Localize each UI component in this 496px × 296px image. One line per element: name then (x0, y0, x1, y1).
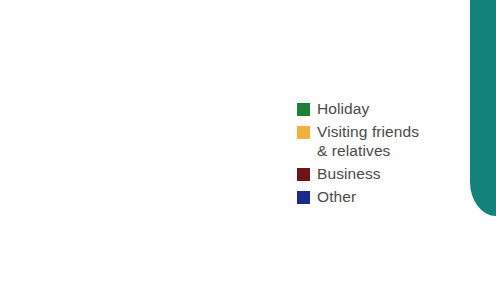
pie-chart-figure: Holiday Visiting friends & relatives Bus… (0, 0, 496, 296)
page-edge-decoration (470, 0, 496, 216)
legend-swatch-visiting-friends-and-relatives (297, 126, 310, 139)
chart-legend: Holiday Visiting friends & relatives Bus… (297, 99, 427, 210)
legend-label-holiday: Holiday (317, 99, 369, 118)
pie-chart-svg (22, 23, 276, 277)
pie-chart-plot-area (22, 23, 276, 277)
legend-item-holiday[interactable]: Holiday (297, 99, 427, 118)
legend-swatch-holiday (297, 103, 310, 116)
legend-item-business[interactable]: Business (297, 164, 427, 183)
legend-label-visiting-friends-and-relatives: Visiting friends & relatives (317, 122, 419, 160)
legend-item-other[interactable]: Other (297, 187, 427, 206)
legend-label-business: Business (317, 164, 381, 183)
legend-swatch-other (297, 191, 310, 204)
legend-label-other: Other (317, 187, 356, 206)
legend-swatch-business (297, 168, 310, 181)
legend-item-visiting-friends-and-relatives[interactable]: Visiting friends & relatives (297, 122, 427, 160)
